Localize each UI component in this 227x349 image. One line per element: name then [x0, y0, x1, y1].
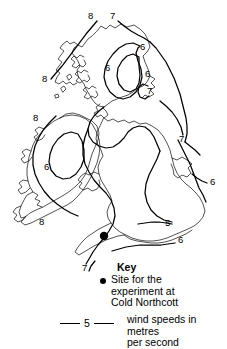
cold-northcott-site-marker [100, 232, 108, 240]
isoline-label: 8 [39, 216, 44, 227]
isoline-value-labels: 8 7 8 6 6 6 7 8 6 8 7 6 5 6 7 [33, 10, 215, 273]
isoline-label: 6 [210, 176, 215, 187]
legend-dash-right [94, 323, 114, 324]
isoline-label: 7 [110, 10, 115, 21]
legend-line: per second [127, 337, 227, 349]
isoline-label: 6 [44, 161, 49, 172]
isoline-label: 6 [178, 234, 183, 245]
isoline-label: 8 [88, 10, 93, 21]
key-site-label: Site for the experiment at Cold Northcot… [111, 274, 178, 309]
legend-dash-left [60, 323, 80, 324]
key: Key Site for the experiment at Cold Nort… [95, 261, 227, 309]
isoline-label: 8 [42, 73, 47, 84]
legend-label: wind speeds in metres per second [127, 314, 227, 349]
key-site-line: Cold Northcott [111, 297, 178, 309]
filled-circle-icon [95, 274, 111, 284]
isoline-label: 7 [179, 133, 184, 144]
isoline-label: 6 [105, 62, 110, 73]
isoline-label: 7 [147, 85, 152, 96]
legend-line: wind speeds in metres [127, 314, 227, 337]
legend-value: 5 [80, 318, 94, 328]
isoline-label: 6 [140, 41, 145, 52]
key-title: Key [117, 261, 227, 273]
isoline-label: 6 [145, 68, 150, 79]
isoline-label: 5 [165, 217, 170, 228]
labelled-line-icon: 5 [60, 314, 127, 328]
isoline-label: 7 [82, 262, 87, 273]
isoline-label: 8 [33, 112, 38, 123]
legend-wind-speed-entry: 5 wind speeds in metres per second [60, 314, 227, 349]
key-site-line: Site for the [111, 274, 178, 286]
key-site-entry: Site for the experiment at Cold Northcot… [95, 274, 227, 309]
